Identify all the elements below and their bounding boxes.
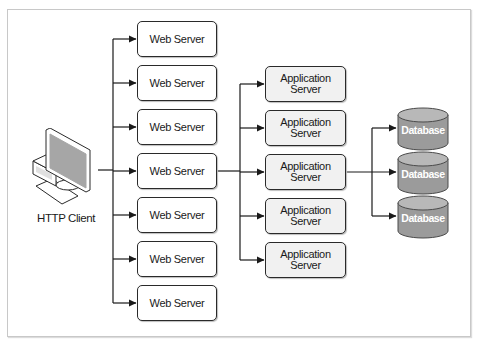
database-cylinder: Database [397, 195, 449, 239]
database-cylinder: Database [397, 107, 449, 151]
application-server-box: Application Server [265, 198, 346, 234]
database-label: Database [397, 212, 449, 224]
web-server-box: Web Server [137, 241, 217, 277]
web-server-box: Web Server [137, 197, 217, 233]
app-server-label-line2: Server [290, 128, 321, 139]
http-client-label: HTTP Client [26, 212, 106, 224]
web-server-box: Web Server [137, 109, 217, 145]
web-server-box: Web Server [137, 65, 217, 101]
application-server-box: Application Server [265, 154, 346, 190]
app-server-label-line2: Server [290, 84, 321, 95]
web-server-box: Web Server [137, 153, 217, 189]
database-cylinder: Database [397, 151, 449, 195]
app-server-label-line2: Server [290, 216, 321, 227]
web-server-box: Web Server [137, 285, 217, 321]
database-label: Database [397, 124, 449, 136]
application-server-box: Application Server [265, 110, 346, 146]
web-server-box: Web Server [137, 21, 217, 57]
application-server-box: Application Server [265, 242, 346, 278]
database-label: Database [397, 168, 449, 180]
app-server-label-line2: Server [290, 172, 321, 183]
desktop-computer-icon [28, 128, 100, 212]
app-server-label-line2: Server [290, 260, 321, 271]
application-server-box: Application Server [265, 66, 346, 102]
